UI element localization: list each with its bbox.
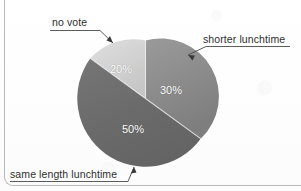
pie-chart-graphic bbox=[0, 0, 301, 191]
callout-label-no-vote: no vote bbox=[52, 16, 87, 28]
callout-label-shorter-lunchtime: shorter lunchtime bbox=[203, 33, 285, 45]
slice-value-shorter-lunchtime: 30% bbox=[160, 84, 182, 96]
pie-chart: no vote shorter lunchtime same length lu… bbox=[0, 0, 301, 191]
callout-line-shorter-lunchtime bbox=[188, 47, 290, 56]
callout-line-no-vote bbox=[50, 31, 113, 44]
slice-value-no-vote: 20% bbox=[110, 63, 132, 75]
slice-value-same-length-lunchtime: 50% bbox=[122, 123, 144, 135]
callout-label-same-length-lunchtime: same length lunchtime bbox=[10, 168, 117, 180]
scanned-page: no vote shorter lunchtime same length lu… bbox=[0, 0, 301, 191]
arrowhead-no-vote bbox=[107, 36, 114, 43]
arrowhead-same-length-lunchtime bbox=[131, 167, 137, 174]
